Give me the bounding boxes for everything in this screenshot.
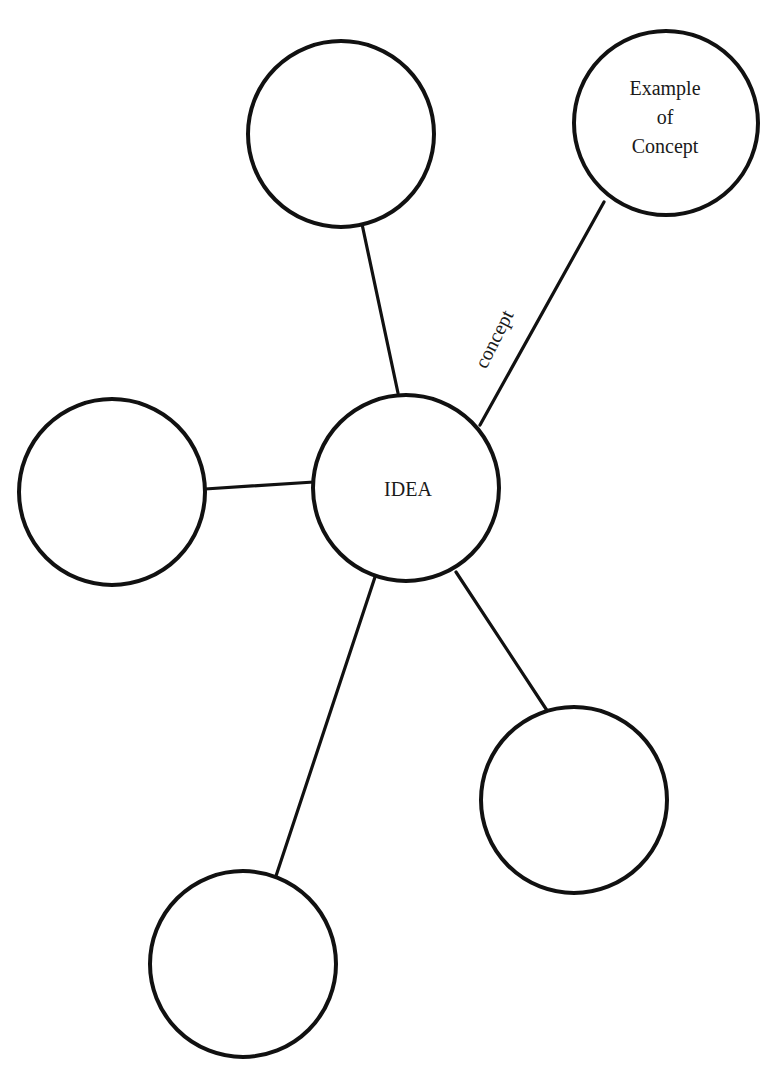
node-lower-right — [481, 707, 667, 893]
node-idea-center: IDEA — [313, 395, 499, 581]
node-bottom — [150, 871, 336, 1057]
example-label-line3: Concept — [632, 135, 699, 158]
example-label-line1: Example — [629, 77, 700, 100]
node-left — [19, 399, 205, 585]
edge-idea-left — [205, 482, 314, 489]
concept-map-diagram: concept Example of Concept IDEA — [0, 0, 779, 1078]
example-label-line2: of — [657, 106, 674, 128]
idea-label: IDEA — [384, 478, 432, 500]
edge-idea-top — [362, 224, 398, 393]
node-top — [248, 41, 434, 227]
node-example-of-concept: Example of Concept — [574, 31, 758, 215]
concept-map-svg: concept Example of Concept IDEA — [0, 0, 779, 1078]
edge-idea-bottom — [276, 577, 375, 876]
edge-idea-lower-right — [456, 572, 548, 712]
edge-label-concept: concept — [470, 306, 519, 372]
